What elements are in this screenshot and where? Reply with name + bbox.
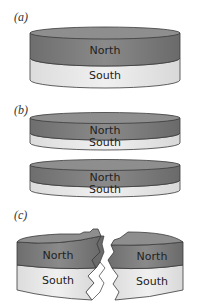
disk-a-north-label: North xyxy=(90,44,121,57)
disk-a-top xyxy=(30,27,180,39)
disk-b-upper-south-label: South xyxy=(89,136,121,149)
disk-a-south-label: South xyxy=(89,69,121,82)
disk-b-lower: North South xyxy=(30,160,180,198)
disk-b-lower-south-label: South xyxy=(89,183,121,196)
disk-a: North South xyxy=(30,27,180,88)
disk-c-right-piece: North South xyxy=(108,232,183,300)
disk-c-left-south-label: South xyxy=(42,274,74,287)
disk-c-left-piece: North South xyxy=(17,229,105,300)
magnet-diagram: North South North South North South Nort… xyxy=(0,0,199,303)
disk-b-upper: North South xyxy=(30,113,180,151)
disk-c-left-north-label: North xyxy=(43,249,74,262)
disk-c-right-south-label: South xyxy=(136,275,168,288)
disk-c-right-north-label: North xyxy=(137,250,168,263)
